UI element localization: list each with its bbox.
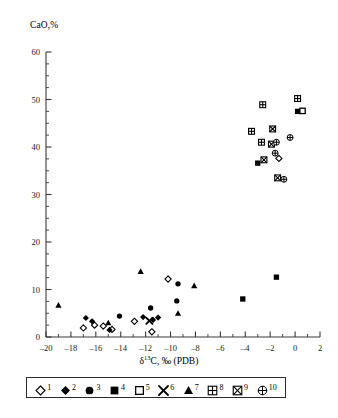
data-point-square-x [270, 126, 276, 132]
data-point-filled-diamond [61, 386, 70, 395]
x-axis-label: δ13C, ‰ (PDB) [0, 354, 338, 366]
legend-item-5[interactable]: 5 [134, 382, 150, 393]
scatter-chart-figure: CaO,% 0102030405060–20–18–16–14–12–10–8–… [0, 0, 338, 418]
data-point-open-diamond [149, 329, 155, 335]
data-point-open-diamond [36, 386, 45, 395]
x-tick-label: –4 [240, 343, 250, 353]
legend-item-4[interactable]: 4 [109, 382, 125, 393]
legend-item-3[interactable]: 3 [84, 382, 100, 393]
legend-item-10[interactable]: 10 [257, 382, 277, 393]
data-point-open-square [135, 387, 143, 395]
legend-item-9[interactable]: 9 [232, 382, 248, 393]
legend-label-8: 8 [219, 384, 223, 392]
series-3 [117, 281, 181, 319]
legend-label-1: 1 [47, 384, 51, 392]
data-point-filled-square [240, 296, 245, 301]
legend-item-8[interactable]: 8 [207, 382, 223, 393]
open-diamond-icon [131, 318, 137, 324]
data-point-filled-triangle [138, 268, 144, 274]
y-tick-label: 30 [32, 190, 41, 200]
data-point-open-diamond [165, 276, 171, 282]
series-5 [300, 108, 305, 113]
data-point-open-diamond [131, 318, 137, 324]
x-axis-label-rest: C, ‰ (PDB) [151, 356, 199, 366]
data-point-square-plus [295, 96, 301, 102]
filled-diamond-icon [83, 315, 89, 321]
legend-label-5: 5 [146, 384, 150, 392]
data-point-square-plus [260, 102, 266, 108]
data-point-filled-circle [174, 298, 179, 303]
x-tick-label: –18 [64, 343, 78, 353]
data-point-filled-diamond [140, 314, 146, 320]
data-point-filled-triangle [175, 310, 181, 316]
x-tick-label: –2 [265, 343, 275, 353]
x-tick-label: –6 [215, 343, 225, 353]
legend-label-3: 3 [96, 384, 100, 392]
open-diamond-icon [165, 276, 171, 282]
open-square-icon [300, 108, 305, 113]
cross-x-icon [158, 382, 169, 393]
data-point-filled-diamond [83, 315, 89, 321]
data-point-filled-circle [175, 281, 180, 286]
data-point-square-plus [209, 386, 218, 395]
filled-circle-icon [84, 382, 95, 393]
open-diamond-icon [35, 382, 46, 393]
filled-diamond-icon [140, 314, 146, 320]
y-tick-label: 50 [32, 95, 41, 105]
legend-label-6: 6 [170, 384, 174, 392]
open-square-icon [135, 387, 143, 395]
open-diamond-icon [100, 323, 106, 329]
data-point-filled-circle [86, 387, 94, 395]
legend-label-2: 2 [72, 384, 76, 392]
filled-square-icon [240, 296, 245, 301]
circle-plus-icon [257, 382, 268, 393]
data-point-open-square [300, 108, 305, 113]
legend-label-9: 9 [244, 384, 248, 392]
y-tick-label: 60 [32, 47, 41, 57]
legend-item-2[interactable]: 2 [60, 382, 76, 393]
legend-item-1[interactable]: 1 [35, 382, 51, 393]
open-diamond-icon [80, 325, 86, 331]
filled-square-icon [109, 382, 120, 393]
filled-square-icon [274, 274, 279, 279]
x-tick-label: –12 [138, 343, 152, 353]
x-tick-label: –16 [88, 343, 102, 353]
square-x-icon [232, 382, 243, 393]
data-point-circle-plus [287, 135, 293, 141]
open-square-icon [134, 382, 145, 393]
data-point-filled-square [255, 160, 260, 165]
legend-item-6[interactable]: 6 [158, 382, 174, 393]
filled-diamond-icon [60, 382, 71, 393]
filled-circle-icon [86, 387, 94, 395]
filled-triangle-icon [184, 386, 193, 394]
x-tick-label: –8 [190, 343, 200, 353]
filled-square-icon [111, 387, 119, 395]
data-point-filled-triangle [184, 386, 193, 394]
filled-triangle-icon [105, 320, 111, 326]
data-point-filled-triangle [105, 320, 111, 326]
data-point-circle-plus [273, 139, 279, 145]
data-point-cross-x [159, 386, 168, 395]
series-1 [80, 155, 282, 335]
filled-circle-icon [175, 281, 180, 286]
filled-triangle-icon [55, 302, 61, 308]
data-point-filled-triangle [191, 283, 197, 289]
open-diamond-icon [149, 329, 155, 335]
data-point-square-x [275, 175, 281, 181]
legend-item-7[interactable]: 7 [183, 382, 199, 393]
filled-diamond-icon [61, 386, 70, 395]
data-point-circle-plus [258, 386, 267, 395]
x-tick-label: 2 [318, 343, 322, 353]
data-point-filled-square [274, 274, 279, 279]
data-point-circle-plus [281, 176, 287, 182]
data-point-open-diamond [80, 325, 86, 331]
y-tick-label: 40 [32, 142, 41, 152]
legend-label-7: 7 [195, 384, 199, 392]
legend: 12345678910 [26, 377, 286, 398]
data-point-square-plus [249, 128, 255, 134]
x-tick-label: –14 [113, 343, 128, 353]
data-point-filled-circle [117, 313, 122, 318]
filled-triangle-icon [138, 268, 144, 274]
legend-label-10: 10 [269, 384, 277, 392]
filled-triangle-icon [183, 382, 194, 393]
